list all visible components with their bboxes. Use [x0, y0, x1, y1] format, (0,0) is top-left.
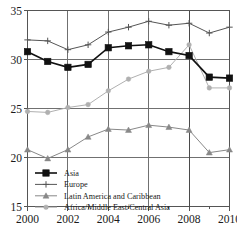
series-point-africa-middle-east-central-asia-2006 — [146, 69, 151, 74]
y-tick-label-30: 30 — [11, 54, 23, 66]
x-tick-label-2008: 2008 — [178, 213, 201, 225]
series-point-africa-middle-east-central-asia-2008 — [187, 43, 192, 48]
legend-marker-3 — [44, 205, 49, 210]
series-point-asia-2010 — [226, 75, 232, 81]
series-point-asia-2007 — [166, 48, 172, 54]
series-point-africa-middle-east-central-asia-2004 — [106, 89, 111, 94]
x-tick-label-2004: 2004 — [97, 213, 120, 225]
y-tick-label-35: 35 — [11, 5, 23, 17]
series-point-africa-middle-east-central-asia-2001 — [45, 110, 50, 115]
series-point-latin-america-and-caribbean-2001 — [45, 155, 51, 160]
series-point-africa-middle-east-central-asia-2007 — [167, 65, 172, 70]
series-point-latin-america-and-caribbean-2002 — [65, 147, 71, 152]
legend-label-2: Latin America and Caribbean — [64, 192, 161, 201]
series-line-asia — [28, 45, 230, 78]
series-point-asia-2008 — [186, 52, 192, 58]
x-tick-label-2006: 2006 — [137, 213, 160, 225]
series-point-latin-america-and-caribbean-2006 — [146, 122, 152, 127]
series-point-asia-2003 — [85, 61, 91, 67]
series-point-asia-2001 — [45, 58, 51, 64]
legend-label-0: Asia — [64, 169, 79, 178]
x-tick-label-2000: 2000 — [16, 213, 39, 225]
series-point-africa-middle-east-central-asia-2000 — [25, 109, 30, 114]
y-tick-label-20: 20 — [11, 152, 23, 164]
series-point-africa-middle-east-central-asia-2005 — [126, 77, 131, 82]
chart-container: 1520253035200020022004200620082010AsiaEu… — [0, 0, 237, 234]
y-tick-label-15: 15 — [11, 201, 23, 213]
series-point-asia-2005 — [125, 43, 131, 49]
series-point-africa-middle-east-central-asia-2010 — [227, 86, 232, 91]
y-tick-label-25: 25 — [11, 103, 23, 115]
series-point-africa-middle-east-central-asia-2009 — [207, 86, 212, 91]
series-point-asia-2002 — [65, 64, 71, 70]
line-chart: 1520253035200020022004200620082010AsiaEu… — [0, 0, 237, 234]
legend-marker-0 — [43, 170, 49, 176]
legend-label-1: Europe — [64, 180, 88, 189]
legend-label-3: Africa/Middle East/Central Asia — [64, 203, 170, 212]
series-point-africa-middle-east-central-asia-2002 — [66, 105, 71, 110]
series-point-latin-america-and-caribbean-2010 — [227, 147, 233, 152]
series-point-asia-2004 — [105, 45, 111, 51]
series-point-africa-middle-east-central-asia-2003 — [86, 102, 91, 107]
x-tick-label-2010: 2010 — [218, 213, 237, 225]
x-tick-label-2002: 2002 — [56, 213, 79, 225]
series-point-latin-america-and-caribbean-2000 — [25, 147, 31, 152]
series-point-asia-2006 — [146, 42, 152, 48]
series-point-asia-2009 — [206, 74, 212, 80]
series-point-asia-2000 — [24, 48, 30, 54]
